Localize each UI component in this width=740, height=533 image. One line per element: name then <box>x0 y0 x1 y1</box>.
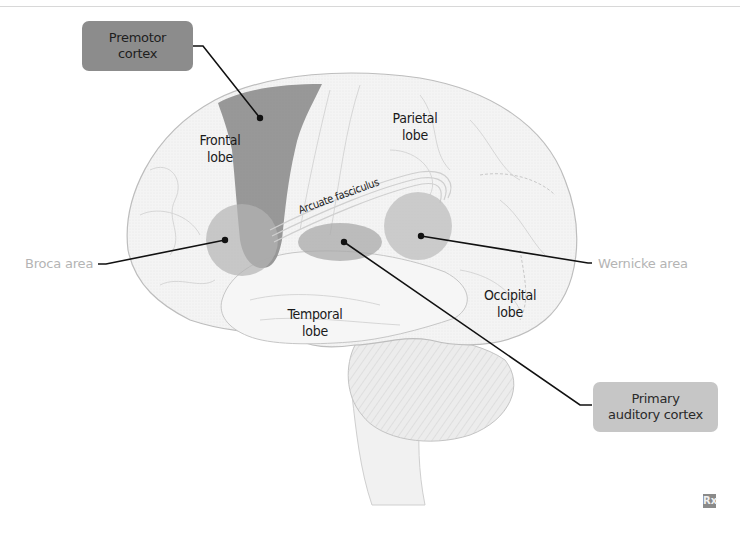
occipital-lobe-line2: lobe <box>470 304 550 321</box>
premotor-cortex-line2: cortex <box>118 46 157 62</box>
occipital-lobe-line1: Occipital <box>470 287 550 304</box>
primary-auditory-line2: auditory cortex <box>608 407 703 423</box>
temporal-lobe-line1: Temporal <box>275 306 355 323</box>
auditory-region <box>298 223 382 261</box>
premotor-cortex-callout: Premotor cortex <box>82 21 193 71</box>
parietal-lobe-label: Parietal lobe <box>380 110 450 144</box>
cerebellum <box>348 337 514 442</box>
wernicke-region <box>384 192 452 260</box>
broca-area-label: Broca area <box>25 256 93 271</box>
rx-logo-icon: Rx <box>703 494 716 508</box>
parietal-lobe-line1: Parietal <box>380 110 450 127</box>
primary-auditory-cortex-callout: Primary auditory cortex <box>593 382 718 432</box>
temporal-lobe-line2: lobe <box>275 323 355 340</box>
premotor-cortex-line1: Premotor <box>109 30 166 46</box>
broca-region <box>206 204 278 276</box>
primary-auditory-line1: Primary <box>631 391 679 407</box>
temporal-lobe-label: Temporal lobe <box>275 306 355 340</box>
parietal-lobe-line2: lobe <box>380 127 450 144</box>
wernicke-area-label: Wernicke area <box>598 256 688 271</box>
frontal-lobe-line1: Frontal <box>190 132 250 149</box>
frontal-lobe-line2: lobe <box>190 149 250 166</box>
occipital-lobe-label: Occipital lobe <box>470 287 550 321</box>
frontal-lobe-label: Frontal lobe <box>190 132 250 166</box>
